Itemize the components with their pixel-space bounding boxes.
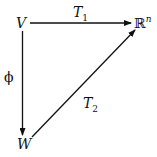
label-phi: ϕ xyxy=(4,70,14,84)
t2-base: T xyxy=(83,95,92,111)
arrow-t2 xyxy=(32,30,135,137)
node-rn: ℝn xyxy=(134,15,151,30)
node-w: W xyxy=(17,137,31,151)
node-v: V xyxy=(16,16,26,30)
label-t1: T1 xyxy=(73,5,88,23)
t1-sub: 1 xyxy=(82,13,88,23)
label-t2: T2 xyxy=(83,96,98,114)
t2-sub: 2 xyxy=(92,104,98,114)
t1-base: T xyxy=(73,4,82,20)
commutative-diagram: V ℝn W T1 ϕ T2 xyxy=(0,0,157,157)
rn-base: ℝ xyxy=(134,15,146,31)
rn-sup: n xyxy=(146,14,152,24)
